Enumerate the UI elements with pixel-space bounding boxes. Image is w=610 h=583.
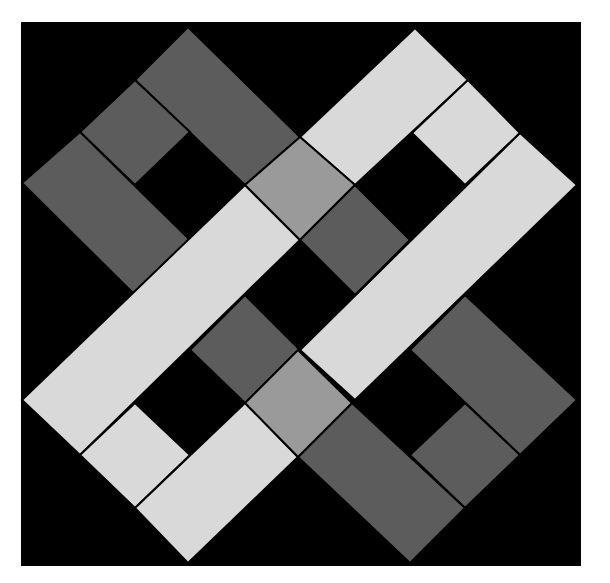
black-background-square: [21, 22, 581, 566]
quilt-block-artwork: [0, 0, 610, 583]
